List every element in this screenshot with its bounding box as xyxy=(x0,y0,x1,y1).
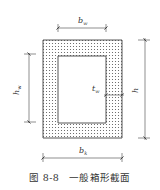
box-wall-hatched xyxy=(43,40,122,138)
label-bk: bk xyxy=(79,146,87,156)
label-h: h xyxy=(131,88,140,93)
dimension-left-hw xyxy=(24,53,36,124)
dimension-top-bw xyxy=(57,24,108,32)
figure-caption: 图 8-8 一般箱形截面 xyxy=(0,170,160,184)
box-section-diagram: bw bk hw h tw xyxy=(0,0,160,190)
label-tw: tw xyxy=(92,84,100,94)
label-hw: hw xyxy=(12,85,22,95)
label-bw: bw xyxy=(78,16,88,26)
